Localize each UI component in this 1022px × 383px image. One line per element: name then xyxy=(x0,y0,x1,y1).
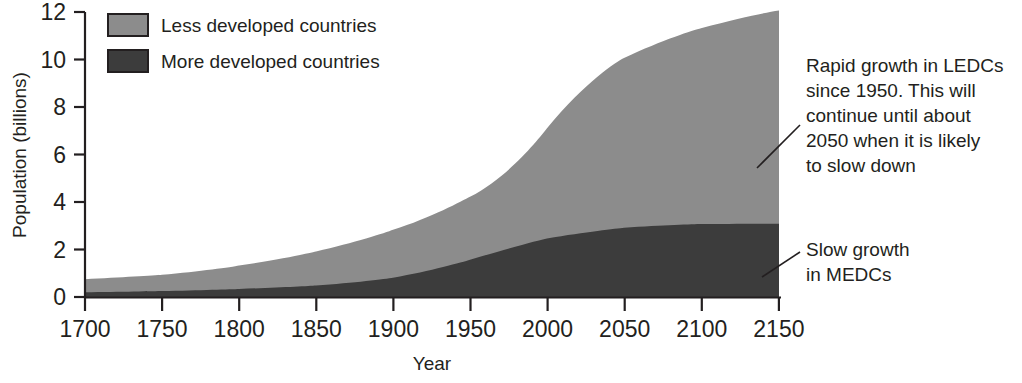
x-tick-label-2000: 2000 xyxy=(522,316,573,342)
medc-annotation-line-2: in MEDCs xyxy=(806,264,892,285)
x-tick-label-1950: 1950 xyxy=(445,316,496,342)
y-axis-title: Population (billions) xyxy=(9,72,30,238)
population-growth-area-chart: 12 10 8 6 4 2 0 1700 1750 1800 1850 1900… xyxy=(0,0,1022,383)
x-axis-title: Year xyxy=(413,353,452,374)
x-tick-label-1700: 1700 xyxy=(59,316,110,342)
ledc-annotation-line-4: 2050 when it is likely xyxy=(806,130,981,151)
x-tick-label-1750: 1750 xyxy=(137,316,188,342)
y-tick-label-10: 10 xyxy=(40,47,66,73)
x-tick-label-2050: 2050 xyxy=(599,316,650,342)
y-tick-label-8: 8 xyxy=(53,94,66,120)
ledc-annotation-line-5: to slow down xyxy=(806,155,916,176)
ledc-annotation-line-2: since 1950. This will xyxy=(806,80,976,101)
ledc-annotation-line-1: Rapid growth in LEDCs xyxy=(806,55,1003,76)
y-tick-label-0: 0 xyxy=(53,284,66,310)
legend-item-more-developed-countries[interactable]: More developed countries xyxy=(108,50,380,72)
y-tick-label-2: 2 xyxy=(53,237,66,263)
x-tick-label-2150: 2150 xyxy=(753,316,804,342)
legend-label-more-developed: More developed countries xyxy=(161,51,380,72)
y-tick-labels: 12 10 8 6 4 2 0 xyxy=(40,0,66,310)
annotation-ledc: Rapid growth in LEDCs since 1950. This w… xyxy=(757,55,1003,176)
legend-swatch-more-developed xyxy=(108,50,148,72)
x-tick-labels: 1700 1750 1800 1850 1900 1950 2000 2050 … xyxy=(59,316,804,342)
y-tick-label-4: 4 xyxy=(53,189,66,215)
x-tick-label-1850: 1850 xyxy=(291,316,342,342)
legend-label-less-developed: Less developed countries xyxy=(161,15,376,36)
chart-legend: Less developed countries More developed … xyxy=(108,14,380,72)
y-tick-label-6: 6 xyxy=(53,142,66,168)
y-tick-label-12: 12 xyxy=(40,0,66,25)
annotation-medc: Slow growth in MEDCs xyxy=(762,239,910,285)
x-tick-label-1800: 1800 xyxy=(214,316,265,342)
x-tick-label-2100: 2100 xyxy=(676,316,727,342)
ledc-annotation-line-3: continue until about xyxy=(806,105,972,126)
legend-swatch-less-developed xyxy=(108,14,148,36)
legend-item-less-developed-countries[interactable]: Less developed countries xyxy=(108,14,376,36)
chart-canvas: 12 10 8 6 4 2 0 1700 1750 1800 1850 1900… xyxy=(0,0,1022,383)
medc-annotation-line-1: Slow growth xyxy=(806,239,910,260)
x-tick-label-1900: 1900 xyxy=(368,316,419,342)
